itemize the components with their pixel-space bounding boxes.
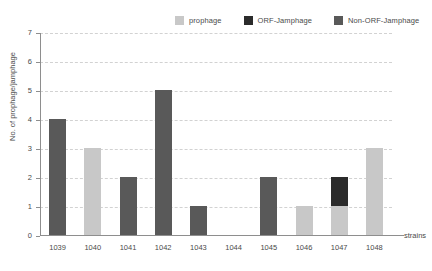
y-tick-label: 6 [28, 58, 32, 66]
bar-group[interactable] [49, 119, 66, 235]
bar-group[interactable] [120, 177, 137, 235]
y-tick-label: 0 [28, 232, 32, 240]
chart-legend: prophage ORF-Jamphage Non-ORF-Jamphage [175, 13, 427, 27]
bar-segment[interactable] [331, 206, 348, 235]
bar-segment[interactable] [296, 206, 313, 235]
legend-label-prophage: prophage [189, 16, 222, 25]
legend-label-non-orf-jamphage: Non-ORF-Jamphage [348, 16, 419, 25]
bar-group[interactable] [260, 177, 277, 235]
x-tick-label: 1039 [49, 243, 66, 252]
legend-item-non-orf-jamphage: Non-ORF-Jamphage [334, 16, 419, 25]
bar-group[interactable] [366, 148, 383, 235]
legend-swatch-icon-prophage [175, 16, 184, 25]
bar-segment[interactable] [155, 90, 172, 235]
bar-group[interactable] [155, 90, 172, 235]
x-tick-label: 1047 [331, 243, 348, 252]
y-axis-title: No. of prophage/jamphage [8, 27, 17, 167]
y-tick-label: 5 [28, 87, 32, 95]
bar-segment[interactable] [84, 148, 101, 235]
x-axis-extension [392, 235, 404, 236]
x-tick-label: 1042 [155, 243, 172, 252]
bar-segment[interactable] [331, 177, 348, 206]
legend-label-orf-jamphage: ORF-Jamphage [258, 16, 313, 25]
y-tick-label: 4 [28, 116, 32, 124]
bar-group[interactable] [190, 206, 207, 235]
bar-group[interactable] [84, 148, 101, 235]
y-tick-mark [36, 236, 40, 237]
bar-group[interactable] [296, 206, 313, 235]
y-tick-label: 7 [28, 29, 32, 37]
bar-segment[interactable] [190, 206, 207, 235]
bar-chart: prophage ORF-Jamphage Non-ORF-Jamphage N… [0, 0, 432, 271]
legend-swatch-icon-orf-jamphage [244, 16, 253, 25]
x-tick-label: 1041 [120, 243, 137, 252]
y-tick-label: 2 [28, 174, 32, 182]
legend-swatch-icon-non-orf-jamphage [334, 16, 343, 25]
x-tick-label: 1040 [84, 243, 101, 252]
bar-segment[interactable] [120, 177, 137, 235]
y-tick-label: 3 [28, 145, 32, 153]
bar-group[interactable] [331, 177, 348, 235]
bars-layer [40, 33, 392, 236]
bar-segment[interactable] [366, 148, 383, 235]
x-tick-label: 1048 [366, 243, 383, 252]
bar-segment[interactable] [260, 177, 277, 235]
x-tick-label: 1046 [296, 243, 313, 252]
y-tick-label: 1 [28, 203, 32, 211]
x-tick-label: 1043 [190, 243, 207, 252]
legend-item-orf-jamphage: ORF-Jamphage [244, 16, 313, 25]
x-tick-label: 1044 [225, 243, 242, 252]
bar-segment[interactable] [49, 119, 66, 235]
x-tick-label: 1045 [260, 243, 277, 252]
plot-area: 01234567 [40, 33, 392, 236]
legend-item-prophage: prophage [175, 16, 222, 25]
x-axis-title: strains [404, 231, 426, 240]
